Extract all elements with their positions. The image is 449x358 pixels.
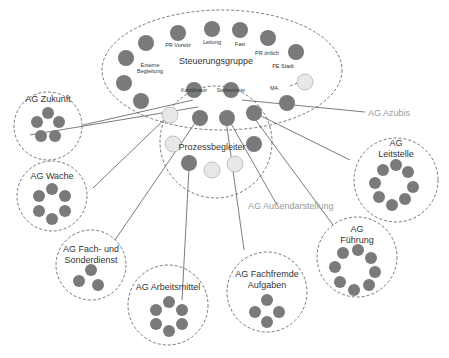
member-dot: [150, 318, 162, 330]
member-dot: [59, 190, 71, 202]
member-dot: [59, 205, 71, 217]
member-dot: [92, 279, 104, 291]
member-dot: [329, 261, 341, 273]
working-group-title-line1: AG Fach- und: [63, 244, 119, 254]
member-dot: [138, 35, 154, 51]
working-group-fuehrung: AG Führung: [317, 217, 397, 297]
working-group-leitstelle: AG Leitstelle: [354, 138, 438, 222]
member-dot: [369, 266, 381, 278]
member-dot: [53, 116, 65, 128]
label-pe-stadt: PE Stadt: [272, 63, 294, 69]
member-dot: [46, 183, 58, 195]
process-group-title: Prozessbegleiter: [178, 142, 245, 152]
member-dot: [73, 275, 85, 287]
working-group-title-line2: Leitstelle: [378, 149, 414, 159]
process-member-dot: [181, 155, 197, 171]
member-dot: [402, 166, 414, 178]
member-dot: [116, 75, 132, 91]
working-group-title: AG Arbeitsmittel: [136, 282, 201, 292]
member-dot-pr-vorsitz: [170, 25, 186, 41]
process-member-dot: [246, 105, 262, 121]
member-dot: [46, 213, 58, 225]
line-fach: [115, 120, 197, 240]
organization-diagram: PR Vorsitz Leitung Fasi PR örtlich PE St…: [0, 0, 449, 358]
member-dot: [163, 325, 175, 337]
member-dot: [33, 205, 45, 217]
working-group-title-line1: AG Fachfremde: [235, 269, 299, 279]
working-group-title-line2: Sonderdienst: [64, 255, 118, 265]
member-dot: [399, 193, 411, 205]
working-group-title: AG Zukunft: [25, 94, 71, 104]
working-group-title-line1: AG: [389, 138, 402, 148]
member-dot: [348, 284, 360, 296]
label-ma: MA: [270, 85, 279, 91]
label-koordinator: Koordinator: [181, 87, 207, 93]
member-dot: [273, 306, 285, 318]
label-fasi: Fasi: [235, 41, 245, 47]
member-dot: [163, 296, 175, 308]
process-member-dot: [162, 107, 178, 123]
member-dot: [176, 318, 188, 330]
member-dot: [337, 247, 349, 259]
working-group-wache: AG Wache: [17, 161, 87, 231]
process-member-dot: [204, 162, 220, 178]
member-dot: [261, 294, 273, 306]
member-dot-pe-stadt: [288, 44, 304, 60]
member-dot-fasi: [232, 22, 248, 38]
line-fachfremde: [226, 120, 244, 250]
member-dot: [386, 199, 398, 211]
label-externe: ExterneBegleitung: [137, 62, 163, 74]
member-dot-ma: [297, 74, 313, 90]
process-member-dot: [227, 156, 243, 172]
working-group-title-line2: Aufgaben: [248, 280, 287, 290]
member-dot-pr-oertlich: [260, 30, 276, 46]
process-member-dot: [192, 110, 208, 126]
member-dot: [365, 252, 377, 264]
working-group-arbeitsmittel: AG Arbeitsmittel: [128, 265, 208, 345]
working-group-title-line2: Führung: [340, 235, 374, 245]
member-dot: [33, 190, 45, 202]
working-group-title: AG Wache: [30, 171, 73, 181]
member-dot: [133, 93, 149, 109]
member-dot: [42, 107, 54, 119]
member-dot: [390, 159, 402, 171]
process-member-dot: [219, 110, 235, 126]
working-group-title-line1: AG: [350, 224, 363, 234]
member-dot: [363, 279, 375, 291]
member-dot: [176, 304, 188, 316]
label-pr-vorsitz: PR Vorsitz: [165, 42, 191, 48]
member-dot: [261, 316, 273, 328]
label-ag-azubis: AG Azubis: [368, 108, 411, 118]
member-dot: [31, 116, 43, 128]
working-group-fachfremde-aufgaben: AG Fachfremde Aufgaben: [227, 252, 307, 332]
member-dot: [85, 264, 97, 276]
process-member-dot: [246, 136, 262, 152]
line-arbeitsmittel: [182, 168, 189, 300]
line-leitstelle: [255, 113, 350, 160]
label-ag-aussendarstellung: AG Außendarstellung: [248, 201, 334, 211]
label-stellvertreter: Stellvertreter: [217, 87, 246, 93]
member-dot: [373, 191, 385, 203]
member-dot: [334, 276, 346, 288]
member-dot: [150, 304, 162, 316]
member-dot: [249, 306, 261, 318]
member-dot: [352, 244, 364, 256]
member-dot-leitung: [204, 21, 220, 37]
member-dot: [407, 181, 419, 193]
member-dot: [35, 130, 47, 142]
working-group-zukunft: AG Zukunft: [14, 92, 82, 160]
member-dot: [279, 95, 295, 111]
label-pr-oertlich: PR örtlich: [255, 50, 279, 56]
working-group-fach-sonderdienst: AG Fach- und Sonderdienst: [56, 230, 126, 300]
member-dot: [369, 177, 381, 189]
member-dot: [377, 164, 389, 176]
member-dot-externe: [118, 50, 134, 66]
member-dot: [49, 130, 61, 142]
steering-group-title: Steuerungsgruppe: [179, 56, 253, 66]
label-leitung: Leitung: [203, 39, 221, 45]
